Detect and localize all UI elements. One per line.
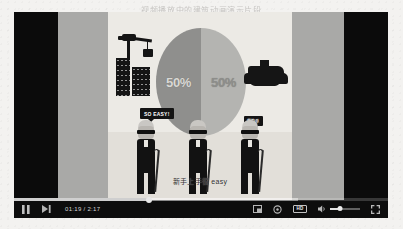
rock-pile-icon <box>244 60 288 88</box>
time-display: 01:19 / 2:17 <box>65 206 100 212</box>
player-controls-bar[interactable]: 01:19 / 2:17 HD <box>14 200 388 218</box>
fullscreen-icon[interactable] <box>371 205 380 214</box>
sunglasses-icon <box>189 130 207 134</box>
pause-button[interactable] <box>22 205 30 214</box>
miniplayer-icon[interactable] <box>253 205 262 213</box>
page-header-text: 视频播放中的建筑动画演示片段 <box>0 0 403 12</box>
page-root: 视频播放中的建筑动画演示片段 50% 50% <box>0 0 403 229</box>
controls-left-group: 01:19 / 2:17 <box>22 200 100 218</box>
sunglasses-icon <box>137 130 155 134</box>
mute-speaker-icon[interactable] <box>318 205 327 213</box>
video-subtitle: 新手上手很 easy <box>108 176 292 186</box>
controls-right-group: HD <box>253 200 380 218</box>
progress-knob[interactable] <box>146 197 152 203</box>
pillarbox-right <box>292 12 344 200</box>
volume-control[interactable] <box>318 205 360 213</box>
volume-slider[interactable] <box>330 208 360 210</box>
video-frame: 50% 50% <box>108 12 292 200</box>
shirt <box>144 140 148 147</box>
quality-badge[interactable]: HD <box>293 205 307 214</box>
construction-crane-icon <box>114 34 160 100</box>
volume-knob[interactable] <box>338 206 343 211</box>
pie-label-right: 50% <box>211 75 236 90</box>
next-video-button[interactable] <box>42 205 51 213</box>
video-stage[interactable]: 50% 50% <box>14 12 388 200</box>
pillarbox-left <box>58 12 108 200</box>
video-player[interactable]: 50% 50% <box>14 12 388 218</box>
settings-gear-icon[interactable] <box>273 205 282 214</box>
speech-bubble-1: SO EASY! <box>140 108 174 119</box>
pie-label-left: 50% <box>166 75 191 90</box>
sunglasses-icon <box>241 130 259 134</box>
shirt <box>196 140 200 147</box>
shirt <box>248 140 252 147</box>
